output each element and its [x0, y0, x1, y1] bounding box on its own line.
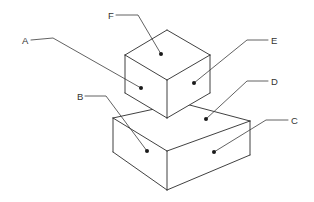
leader-dot-c [212, 150, 216, 154]
leader-dot-e [192, 81, 196, 85]
leader-dot-f [159, 52, 163, 56]
technical-drawing-figure: A B C D E [0, 0, 314, 202]
leader-dot-b [145, 149, 149, 153]
callout-label-f: F [108, 10, 114, 21]
callout-label-a: A [22, 35, 29, 46]
callout-label-d: D [271, 76, 278, 87]
callout-label-c: C [291, 115, 298, 126]
leader-dot-d [204, 117, 208, 121]
isometric-drawing-canvas: A B C D E [0, 0, 314, 202]
leader-dot-a [139, 86, 143, 90]
callout-label-b: B [77, 91, 84, 102]
callout-label-e: E [271, 35, 278, 46]
